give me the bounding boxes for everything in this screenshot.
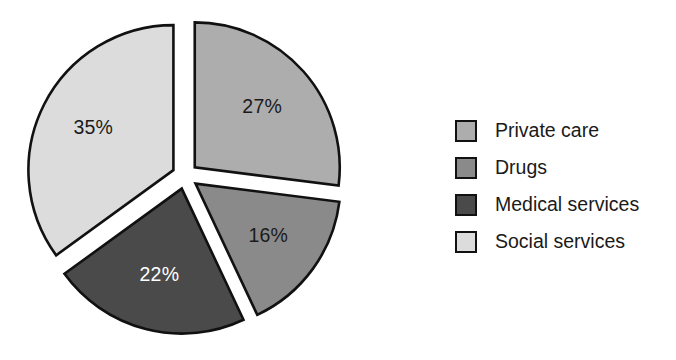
legend-item[interactable]: Private care — [455, 112, 670, 149]
legend-item-label: Medical services — [495, 195, 639, 215]
legend-item-label: Private care — [495, 121, 599, 141]
legend-color-swatch — [455, 120, 477, 142]
pie-slice-value-label: 35% — [73, 116, 113, 138]
chart-legend: Private careDrugsMedical servicesSocial … — [455, 112, 670, 260]
pie-chart-svg: 27%16%22%35% — [0, 0, 420, 360]
legend-item-label: Drugs — [495, 158, 547, 178]
pie-slices-group — [28, 22, 339, 333]
legend-item[interactable]: Medical services — [455, 186, 670, 223]
legend-color-swatch — [455, 231, 477, 253]
legend-color-swatch — [455, 194, 477, 216]
pie-slice-value-label: 16% — [248, 224, 288, 246]
legend-item-label: Social services — [495, 232, 625, 252]
legend-item[interactable]: Social services — [455, 223, 670, 260]
legend-color-swatch — [455, 157, 477, 179]
pie-slice-value-label: 22% — [140, 263, 180, 285]
pie-slice-value-label: 27% — [242, 95, 282, 117]
legend-item[interactable]: Drugs — [455, 149, 670, 186]
pie-chart-figure: 27%16%22%35% Private careDrugsMedical se… — [0, 0, 676, 360]
